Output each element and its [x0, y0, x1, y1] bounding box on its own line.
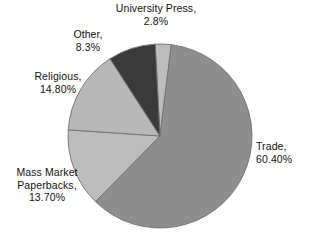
pie-label-mass-market-paperbacks: Mass Market Paperbacks, 13.70%	[2, 166, 92, 204]
pie-label-other: Other, 8.3%	[57, 28, 119, 53]
pie-label-university-press: University Press, 2.8%	[103, 2, 209, 27]
pie-label-trade: Trade, 60.40%	[256, 140, 310, 165]
pie-chart-graphic	[0, 0, 311, 242]
pie-chart: University Press, 2.8% Other, 8.3% Relig…	[0, 0, 311, 242]
pie-label-religious: Religious, 14.80%	[20, 70, 96, 95]
